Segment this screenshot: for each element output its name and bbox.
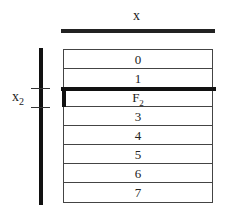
top-axis-label: x [133, 8, 140, 24]
row-label: 4 [135, 128, 142, 143]
x2-tick-top [31, 88, 50, 89]
f2-left-marker [62, 88, 66, 107]
table-row: 5 [64, 145, 212, 164]
row-label: 6 [135, 166, 142, 181]
row-label: 3 [135, 109, 142, 124]
x2-label-sub: 2 [19, 96, 24, 107]
row-label: 5 [135, 147, 142, 162]
table-row: 4 [64, 126, 212, 145]
top-extent-bar [61, 29, 215, 33]
x2-label-base: x [12, 89, 19, 104]
row-label: 1 [135, 71, 142, 86]
table-row: 3 [64, 107, 212, 126]
row-label: 0 [135, 52, 142, 67]
row-label: 7 [135, 185, 142, 200]
table-row: 0 [64, 50, 212, 69]
f2-boundary-line [61, 87, 216, 91]
x2-tick-bottom [31, 107, 50, 108]
table-row: 6 [64, 164, 212, 183]
table-row: 7 [64, 183, 212, 203]
left-extent-bar [39, 48, 43, 205]
table-row: 1 [64, 69, 212, 88]
x2-label: x2 [12, 89, 24, 107]
stack-table: 0 1 F2 3 4 5 6 7 [63, 49, 213, 203]
